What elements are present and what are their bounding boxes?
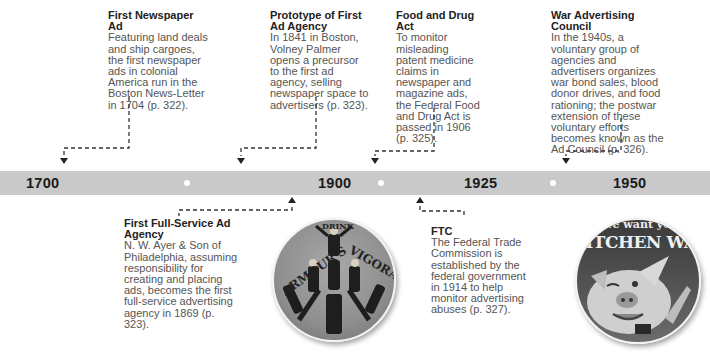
year-label-1925: 1925	[464, 175, 497, 191]
pig-illustration	[577, 220, 699, 342]
year-label-1950: 1950	[613, 175, 646, 191]
year-label-1900: 1900	[318, 175, 351, 191]
timeline-dot	[550, 180, 556, 186]
arrow-down-icon	[60, 158, 68, 164]
connector-line	[375, 108, 434, 156]
arrow-up-icon	[416, 197, 424, 203]
year-label-1700: 1700	[26, 175, 59, 191]
arrow-down-icon	[562, 158, 570, 164]
arrow-down-icon	[237, 158, 245, 164]
event-title: First Full-Service Ad Agency	[124, 218, 239, 240]
connector-line	[420, 206, 464, 216]
arrow-up-icon	[288, 197, 296, 203]
drink-text: DRINK	[322, 221, 354, 231]
connector-line	[566, 118, 621, 156]
connector-line	[241, 97, 316, 156]
event-first-full-service-agency: First Full-Service Ad Agency N. W. Ayer …	[124, 218, 239, 330]
timeline-dot	[184, 180, 190, 186]
connector-line	[64, 97, 129, 156]
timeline-band	[0, 171, 710, 195]
connector-line	[179, 207, 292, 216]
armours-vigoral-image: DRINK ARMOUR'S VIGORAL	[272, 218, 396, 342]
kitchen-waste-poster-image: We want your KITCHEN WASTE	[575, 218, 701, 344]
event-description: The Federal Trade Commission is establis…	[431, 237, 531, 315]
event-ftc: FTC The Federal Trade Commission is esta…	[431, 226, 531, 316]
timeline-dot	[378, 180, 384, 186]
arrow-down-icon	[371, 158, 379, 164]
event-description: N. W. Ayer & Son of Philadelphia, assumi…	[124, 240, 239, 330]
